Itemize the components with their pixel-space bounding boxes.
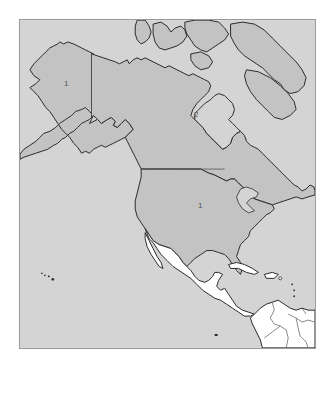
hawaii-island-3 <box>48 275 50 277</box>
north-america-map <box>20 20 315 348</box>
hawaii-island-2 <box>44 275 46 277</box>
label-canada: 2 <box>194 111 198 119</box>
label-usa: 1 <box>198 202 202 210</box>
label-alaska: 1 <box>64 80 68 88</box>
lesser-antilles-2 <box>293 289 295 291</box>
galapagos-islands <box>215 334 218 336</box>
hawaii-island-4 <box>51 278 54 281</box>
map-frame: 1 2 1 <box>19 19 316 349</box>
lesser-antilles-1 <box>291 283 293 285</box>
lesser-antilles-3 <box>293 295 295 297</box>
hawaii-island-1 <box>41 273 43 275</box>
region-puerto-rico <box>279 277 282 280</box>
